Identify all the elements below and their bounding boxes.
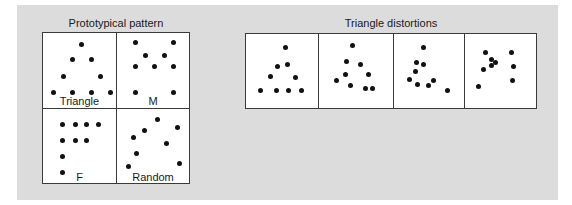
dot-marker <box>509 50 514 55</box>
triangle-distortions-title: Triangle distortions <box>245 17 537 29</box>
distortion-cell-4 <box>465 34 536 108</box>
dot-marker <box>171 64 176 69</box>
dot-marker <box>293 75 298 80</box>
dot-marker <box>421 62 426 67</box>
dot-marker <box>299 88 304 93</box>
dot-marker <box>89 57 94 62</box>
dot-marker <box>350 43 355 48</box>
dot-marker <box>79 42 84 47</box>
dot-marker <box>370 86 375 91</box>
dot-marker <box>445 88 450 93</box>
pattern-label: M <box>117 95 189 107</box>
dot-marker <box>60 170 65 175</box>
dot-marker <box>155 117 160 122</box>
dot-marker <box>413 69 418 74</box>
dot-marker <box>131 135 136 140</box>
dot-marker <box>152 64 157 69</box>
dot-marker <box>275 64 280 69</box>
dot-marker <box>60 138 65 143</box>
dot-marker <box>133 40 138 45</box>
dot-marker <box>133 90 138 95</box>
dot-marker <box>348 83 353 88</box>
dot-marker <box>285 62 290 67</box>
dot-marker <box>84 138 89 143</box>
dot-marker <box>283 45 288 50</box>
pattern-cell-m: M <box>117 33 189 109</box>
dot-marker <box>142 128 147 133</box>
dot-marker <box>511 64 516 69</box>
dot-marker <box>344 59 349 64</box>
pattern-label: F <box>43 171 116 183</box>
prototypical-pattern-title: Prototypical pattern <box>42 17 190 29</box>
dot-marker <box>70 57 75 62</box>
dot-marker <box>73 122 78 127</box>
dot-marker <box>415 82 420 87</box>
triangle-distortions-row <box>245 33 537 109</box>
pattern-label: Random <box>117 171 189 183</box>
dot-marker <box>70 90 75 95</box>
distortion-cell-3 <box>394 34 465 108</box>
dot-marker <box>108 90 113 95</box>
dot-marker <box>171 90 176 95</box>
dot-marker <box>421 45 426 50</box>
dot-marker <box>126 164 131 169</box>
dot-marker <box>175 125 180 130</box>
dot-marker <box>84 122 89 127</box>
dot-marker <box>476 84 481 89</box>
dot-marker <box>363 86 368 91</box>
dot-marker <box>407 77 412 82</box>
dot-marker <box>426 83 431 88</box>
dot-marker <box>164 141 169 146</box>
pattern-cell-random: Random <box>117 109 189 183</box>
dot-marker <box>143 53 148 58</box>
dot-marker <box>268 74 273 79</box>
pattern-label: Triangle <box>43 95 116 107</box>
dot-marker <box>431 78 436 83</box>
distortion-cell-2 <box>319 34 394 108</box>
pattern-cell-triangle: Triangle <box>43 33 117 109</box>
dot-marker <box>489 63 494 68</box>
dot-marker <box>366 72 371 77</box>
dot-marker <box>258 88 263 93</box>
dot-marker <box>483 50 488 55</box>
dot-marker <box>60 154 65 159</box>
dot-marker <box>162 53 167 58</box>
distortion-cell-1 <box>246 34 319 108</box>
dot-marker <box>343 72 348 77</box>
dot-marker <box>98 74 103 79</box>
dot-marker <box>274 88 279 93</box>
dot-marker <box>73 138 78 143</box>
dot-marker <box>481 67 486 72</box>
pattern-cell-f: F <box>43 109 117 183</box>
dot-marker <box>171 40 176 45</box>
dot-marker <box>96 122 101 127</box>
dot-marker <box>286 88 291 93</box>
dot-marker <box>334 78 339 83</box>
dot-marker <box>61 74 66 79</box>
dot-marker <box>414 60 419 65</box>
dot-marker <box>60 122 65 127</box>
dot-marker <box>177 161 182 166</box>
dot-marker <box>51 90 56 95</box>
prototypical-pattern-grid: Triangle M F Random <box>42 32 190 184</box>
dot-marker <box>510 78 515 83</box>
dot-marker <box>133 64 138 69</box>
dot-marker <box>89 90 94 95</box>
dot-marker <box>134 151 139 156</box>
dot-marker <box>358 62 363 67</box>
